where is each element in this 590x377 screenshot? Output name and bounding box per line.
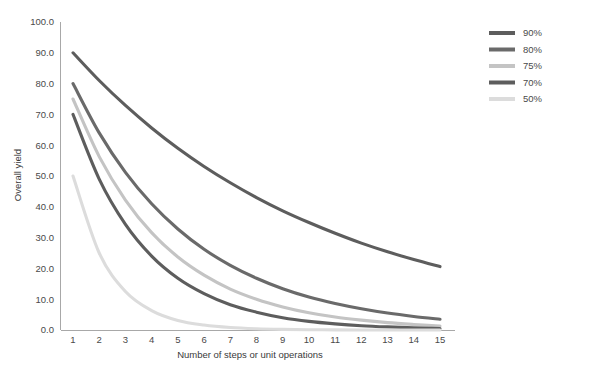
- x-axis-title: Number of steps or unit operations: [177, 349, 323, 360]
- series-group: [73, 53, 440, 330]
- series-line: [73, 114, 440, 328]
- x-tick-label: 5: [175, 334, 180, 345]
- y-axis-title: Overall yield: [12, 149, 23, 201]
- legend-label-80pct[interactable]: 80%: [523, 44, 543, 55]
- x-tick-label: 11: [330, 334, 340, 345]
- y-tick-label: 20.0: [36, 263, 55, 274]
- x-axis-tick-labels: 123456789101112131415: [70, 334, 445, 345]
- x-tick-label: 2: [97, 334, 102, 345]
- series-line: [73, 99, 440, 326]
- x-tick-label: 10: [304, 334, 315, 345]
- y-axis-tick-labels: 0.010.020.030.040.050.060.070.080.090.01…: [30, 16, 54, 335]
- x-tick-label: 4: [149, 334, 154, 345]
- y-tick-label: 0.0: [41, 324, 54, 335]
- legend-label-50pct[interactable]: 50%: [523, 93, 543, 104]
- y-tick-label: 40.0: [36, 201, 55, 212]
- legend-label-90pct[interactable]: 90%: [523, 27, 543, 38]
- x-tick-label: 9: [280, 334, 285, 345]
- x-tick-label: 3: [123, 334, 128, 345]
- chart-legend: 90%80%75%70%50%: [489, 27, 543, 104]
- x-tick-label: 14: [408, 334, 419, 345]
- y-tick-label: 50.0: [36, 170, 55, 181]
- y-tick-label: 90.0: [36, 47, 55, 58]
- chart-container: 0.010.020.030.040.050.060.070.080.090.01…: [0, 0, 590, 377]
- x-tick-label: 13: [382, 334, 393, 345]
- line-chart-svg: 0.010.020.030.040.050.060.070.080.090.01…: [0, 0, 590, 377]
- y-tick-label: 100.0: [30, 16, 54, 27]
- x-tick-label: 8: [254, 334, 259, 345]
- y-tick-label: 60.0: [36, 140, 55, 151]
- legend-label-75pct[interactable]: 75%: [523, 60, 543, 71]
- series-line: [73, 53, 440, 267]
- x-tick-label: 1: [70, 334, 75, 345]
- x-tick-label: 7: [228, 334, 233, 345]
- x-tick-label: 15: [435, 334, 446, 345]
- y-tick-label: 80.0: [36, 78, 55, 89]
- x-tick-label: 12: [356, 334, 367, 345]
- y-tick-label: 30.0: [36, 232, 55, 243]
- x-tick-label: 6: [201, 334, 206, 345]
- y-tick-label: 70.0: [36, 109, 55, 120]
- y-tick-label: 10.0: [36, 294, 55, 305]
- legend-label-70pct[interactable]: 70%: [523, 77, 543, 88]
